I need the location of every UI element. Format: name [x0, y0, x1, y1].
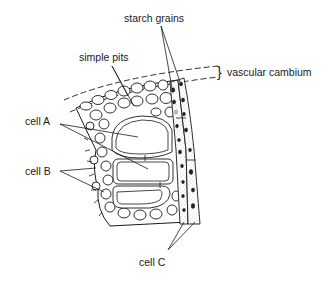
- label-cell-b: cell B: [25, 165, 51, 177]
- diagram-canvas: starch grains simple pits vascular cambi…: [0, 0, 332, 285]
- label-simple-pits: simple pits: [79, 51, 129, 63]
- label-cell-a: cell A: [25, 115, 50, 127]
- starch-cells: [170, 78, 200, 224]
- label-starch-grains: starch grains: [124, 12, 184, 24]
- label-vascular-cambium: vascular cambium: [227, 66, 312, 78]
- brace-icon: }: [217, 64, 222, 80]
- large-cells: [112, 116, 173, 208]
- label-cell-c: cell C: [139, 256, 166, 268]
